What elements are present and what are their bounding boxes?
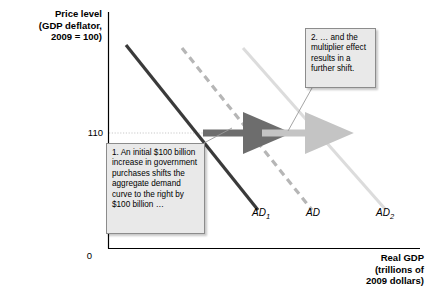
curve-label-ad-text: AD [306, 207, 320, 218]
curve-label-ad2-text: AD [376, 207, 390, 218]
curve-label-ad2: AD2 [376, 207, 394, 221]
curve-label-ad1: AD1 [252, 207, 270, 221]
callout-2-leader [288, 88, 312, 131]
x-axis-title: Real GDP (trillions of 2009 dollars) [300, 252, 424, 287]
y-axis-tick-110: 110 [60, 127, 103, 138]
origin-label: 0 [80, 250, 92, 261]
callout-initial-increase: 1. An initial $100 billion increase in g… [106, 143, 205, 234]
curve-label-ad2-subscript: 2 [390, 212, 394, 221]
callout-multiplier-effect: 2. … and the multiplier effect results i… [305, 28, 376, 88]
curve-label-ad1-subscript: 1 [266, 212, 270, 221]
y-axis-title: Price level (GDP deflator, 2009 = 100) [10, 8, 102, 43]
curve-label-ad: AD [306, 207, 320, 221]
curve-label-ad1-text: AD [252, 207, 266, 218]
aggregate-demand-shift-figure: Price level (GDP deflator, 2009 = 100) R… [0, 0, 436, 289]
